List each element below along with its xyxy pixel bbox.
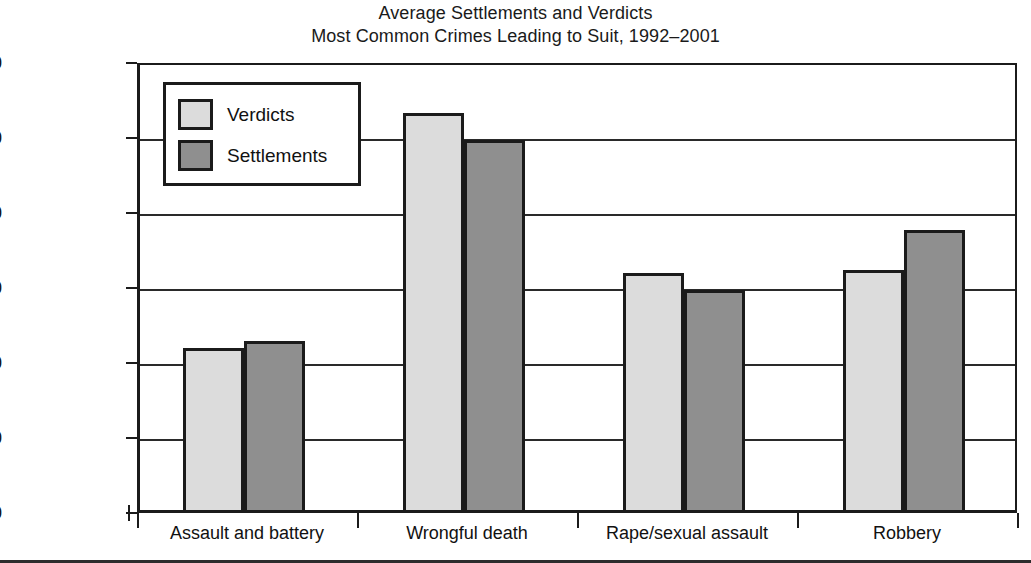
bar-settlements[interactable] (244, 341, 305, 514)
y-axis-tick-label: $500,000 (0, 429, 2, 447)
bar-settlements[interactable] (904, 230, 965, 514)
x-axis-end-tick-mark (137, 513, 139, 528)
bar-verdicts[interactable] (403, 113, 464, 514)
x-axis-category-label: Wrongful death (357, 522, 577, 544)
y-axis-tick-label: $1,500,000 (0, 279, 2, 297)
y-axis-tick-mark (126, 437, 137, 439)
x-axis-end-tick-mark (1017, 513, 1019, 528)
legend-item-verdicts[interactable]: Verdicts (178, 94, 358, 135)
y-axis-tick-label: $2,500,000 (0, 129, 2, 147)
legend-item-settlements[interactable]: Settlements (178, 135, 358, 176)
y-axis-origin-tick (128, 505, 130, 521)
x-axis-tick-mark (577, 513, 579, 528)
bar-verdicts[interactable] (843, 270, 904, 513)
bar-verdicts[interactable] (623, 273, 684, 513)
y-axis-tick-label: $0 (0, 504, 2, 522)
chart-title-block: Average Settlements and Verdicts Most Co… (0, 2, 1031, 48)
bar-settlements[interactable] (684, 290, 745, 514)
y-axis-tick-label: $2,000,000 (0, 204, 2, 222)
y-axis-tick-label: $1,000,000 (0, 354, 2, 372)
x-axis-category-label: Assault and battery (137, 522, 357, 544)
y-axis-tick-mark (126, 212, 137, 214)
gridline (140, 214, 1015, 216)
x-axis-category-label: Rape/sexual assault (577, 522, 797, 544)
legend-swatch-settlements-icon (178, 140, 213, 171)
chart-title: Average Settlements and Verdicts (0, 2, 1031, 25)
chart-page: Average Settlements and Verdicts Most Co… (0, 0, 1031, 563)
x-axis-category-label: Robbery (797, 522, 1017, 544)
legend-label-verdicts: Verdicts (227, 105, 295, 124)
x-axis-tick-mark (357, 513, 359, 528)
y-axis-tick-mark (126, 287, 137, 289)
y-axis-tick-label: $3,000,000 (0, 54, 2, 72)
chart-subtitle: Most Common Crimes Leading to Suit, 1992… (0, 25, 1031, 48)
legend-swatch-verdicts-icon (178, 99, 213, 130)
legend: Verdicts Settlements (163, 82, 361, 186)
y-axis-tick-mark (126, 362, 137, 364)
y-axis-tick-mark (126, 62, 137, 64)
legend-label-settlements: Settlements (227, 146, 327, 165)
bar-verdicts[interactable] (183, 348, 244, 513)
bar-settlements[interactable] (464, 140, 525, 514)
x-axis-tick-mark (797, 513, 799, 528)
y-axis-tick-mark (126, 137, 137, 139)
